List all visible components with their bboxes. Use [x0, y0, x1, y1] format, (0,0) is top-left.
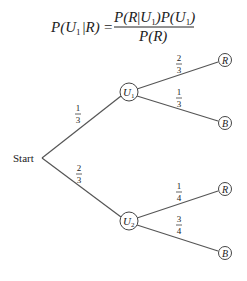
- leaf-u2-b: B: [219, 247, 232, 260]
- leaf-u1-r: R: [219, 54, 232, 67]
- prob-u2-b: 3 4: [176, 214, 182, 236]
- prob-u1-b: 1 3: [176, 87, 182, 109]
- probability-tree-diagram: P(U1|R) = P(R|U1)P(U1) P(R) Start U1 U2 …: [0, 0, 247, 281]
- bayes-formula: P(U1|R) = P(R|U1)P(U1) P(R): [50, 9, 195, 45]
- node-u1: U1: [120, 83, 138, 101]
- formula-numerator: P(R|U1)P(U1): [113, 9, 195, 27]
- svg-text:B: B: [222, 118, 228, 129]
- prob-u2-r: 1 4: [176, 181, 182, 203]
- edge-start-u1: [42, 96, 121, 158]
- svg-text:1: 1: [177, 87, 182, 97]
- svg-text:1: 1: [76, 103, 81, 113]
- formula-lhs: P(U1|R): [50, 19, 100, 37]
- svg-text:3: 3: [177, 214, 182, 224]
- formula-denominator: P(R): [138, 28, 167, 45]
- svg-text:3: 3: [77, 175, 82, 185]
- svg-text:3: 3: [177, 65, 182, 75]
- svg-text:R: R: [221, 55, 228, 66]
- svg-text:4: 4: [177, 193, 182, 203]
- node-u2: U2: [120, 212, 138, 230]
- prob-start-u2: 2 3: [76, 163, 82, 185]
- svg-text:3: 3: [177, 99, 182, 109]
- svg-text:4: 4: [177, 226, 182, 236]
- svg-text:2: 2: [77, 163, 82, 173]
- svg-text:B: B: [222, 248, 228, 259]
- leaf-u2-r: R: [219, 183, 232, 196]
- edge-start-u2: [42, 158, 121, 217]
- svg-text:2: 2: [177, 53, 182, 63]
- leaf-u1-b: B: [219, 117, 232, 130]
- svg-text:R: R: [221, 184, 228, 195]
- start-label: Start: [13, 152, 34, 164]
- prob-u1-r: 2 3: [176, 53, 182, 75]
- svg-text:3: 3: [76, 115, 81, 125]
- svg-text:1: 1: [177, 181, 182, 191]
- prob-start-u1: 1 3: [75, 103, 81, 125]
- formula-equals: =: [104, 19, 112, 35]
